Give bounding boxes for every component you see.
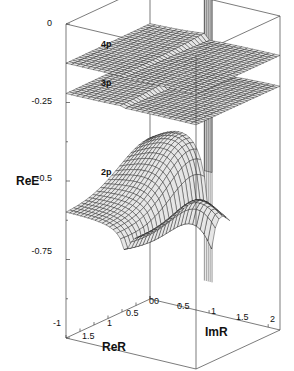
frame-edge [66, 338, 196, 369]
z-tick-label: 0 [47, 18, 52, 28]
x-tick-label: 1.5 [82, 331, 95, 341]
y-tick-label: 0.5 [177, 301, 190, 311]
z-tick-label: -0.75 [31, 246, 52, 256]
x-tick-label: 1 [107, 318, 112, 328]
y-tick-label: 1.5 [236, 312, 249, 322]
surface-label-3p: 3p [101, 78, 112, 88]
surface-plot: 0 -0.25 -0.5 -0.75 -1 ReE 1.5 1 0.5 0 Re… [0, 0, 294, 371]
y-axis-label: ImR [205, 325, 228, 339]
frame-edge [150, 0, 280, 16]
x-axis-ticks: 1.5 1 0.5 0 [82, 296, 154, 341]
x-axis-label: ReR [102, 340, 126, 354]
surfaces [66, 0, 280, 282]
x-tick-label: 0.5 [126, 308, 139, 318]
frame-edge [66, 0, 150, 24]
z-axis-label: ReE [16, 174, 39, 188]
surface-label-2p: 2p [101, 167, 112, 177]
z-tick-label: -0.25 [31, 96, 52, 106]
z-axis-ticks: 0 -0.25 -0.5 -0.75 -1 [31, 18, 61, 328]
y-tick-label: 1 [211, 306, 216, 316]
y-tick-label: 2 [270, 314, 275, 324]
surface-label-4p: 4p [101, 39, 112, 49]
z-tick-label: -1 [53, 318, 61, 328]
y-axis-ticks: 0 0.5 1 1.5 2 [154, 296, 275, 324]
y-tick-label: 0 [154, 296, 159, 306]
